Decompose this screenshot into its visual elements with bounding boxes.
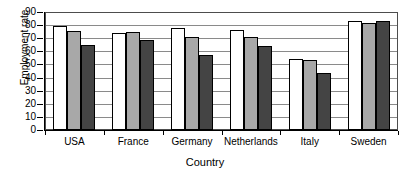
bar xyxy=(67,31,81,130)
bar-group xyxy=(104,12,163,130)
x-tick-label: Italy xyxy=(280,136,339,147)
bar xyxy=(317,73,331,130)
y-axis: 0102030405060708090 xyxy=(0,12,45,130)
bar-group xyxy=(221,12,280,130)
x-tick-mark xyxy=(280,131,281,135)
bar xyxy=(244,37,258,130)
x-tick-mark xyxy=(222,131,223,135)
bar xyxy=(140,40,154,130)
y-tick-label: 90 xyxy=(4,7,36,17)
y-tick-mark xyxy=(37,78,43,79)
x-tick-label: Netherlands xyxy=(221,136,280,147)
x-tick-mark xyxy=(104,131,105,135)
bar xyxy=(81,45,95,130)
y-tick-mark xyxy=(37,130,43,131)
y-tick-label: 70 xyxy=(4,33,36,43)
bar xyxy=(126,32,140,130)
bar xyxy=(171,28,185,130)
bar-group xyxy=(45,12,104,130)
y-tick-label: 50 xyxy=(4,59,36,69)
bar-group xyxy=(339,12,398,130)
y-tick-label: 30 xyxy=(4,86,36,96)
y-tick-mark xyxy=(37,104,43,105)
y-tick-mark xyxy=(37,38,43,39)
bar xyxy=(230,30,244,130)
bar xyxy=(362,23,376,131)
bar xyxy=(258,46,272,130)
bar xyxy=(376,21,390,130)
bar xyxy=(199,55,213,130)
x-axis-tick-labels: USAFranceGermanyNetherlandsItalySweden xyxy=(45,136,398,147)
y-tick-label: 10 xyxy=(4,112,36,122)
bar xyxy=(348,21,362,130)
y-tick-mark xyxy=(37,117,43,118)
bar xyxy=(53,26,67,130)
y-tick-mark xyxy=(37,91,43,92)
x-tick-label: USA xyxy=(45,136,104,147)
bar xyxy=(185,37,199,130)
bar-group xyxy=(163,12,222,130)
x-tick-mark xyxy=(339,131,340,135)
y-tick-mark xyxy=(37,12,43,13)
bar-group xyxy=(280,12,339,130)
bar-chart: Employment rate 0102030405060708090 USAF… xyxy=(0,0,410,179)
y-tick-label: 60 xyxy=(4,46,36,56)
y-tick-mark xyxy=(37,25,43,26)
y-tick-mark xyxy=(37,64,43,65)
x-axis-title: Country xyxy=(0,156,410,168)
x-tick-mark xyxy=(398,131,399,135)
bar xyxy=(112,33,126,130)
y-tick-label: 20 xyxy=(4,99,36,109)
x-tick-label: France xyxy=(104,136,163,147)
y-tick-label: 80 xyxy=(4,20,36,30)
y-tick-mark xyxy=(37,51,43,52)
bar xyxy=(303,60,317,130)
x-tick-label: Germany xyxy=(163,136,222,147)
y-tick-label: 0 xyxy=(4,125,36,135)
bar xyxy=(289,59,303,130)
x-tick-mark xyxy=(163,131,164,135)
y-tick-label: 40 xyxy=(4,73,36,83)
x-tick-mark xyxy=(45,131,46,135)
bar-groups xyxy=(45,12,398,130)
x-tick-label: Sweden xyxy=(339,136,398,147)
